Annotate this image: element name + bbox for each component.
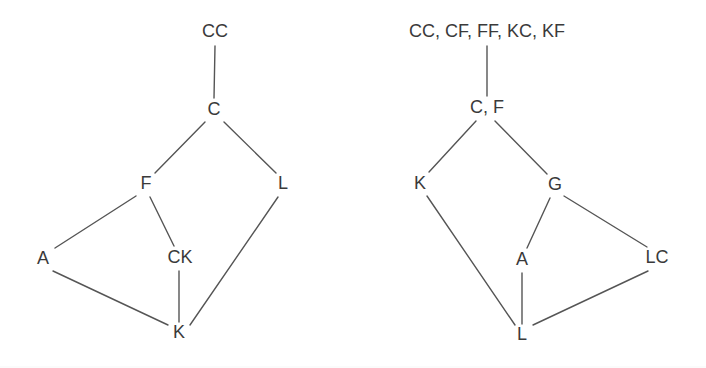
edge-f-a xyxy=(55,196,136,248)
edge-g-a xyxy=(527,198,550,248)
edge-k-l xyxy=(427,196,515,325)
node-f: F xyxy=(141,173,152,193)
node-l: L xyxy=(278,173,288,193)
edge-c-f xyxy=(155,122,205,173)
node-l: L xyxy=(517,324,527,344)
node-k: K xyxy=(414,173,426,193)
edge-cf-k xyxy=(429,121,476,172)
node-cf: C, F xyxy=(470,97,504,117)
lattice-diagrams-svg: CCCFLACKKCC, CF, FF, KC, KFC, FKGALCL xyxy=(0,0,706,368)
figure-canvas: CCCFLACKKCC, CF, FF, KC, KFC, FKGALCL xyxy=(0,0,706,368)
node-lc: LC xyxy=(645,247,668,267)
edge-l-k xyxy=(190,197,278,325)
node-k: K xyxy=(173,322,185,342)
edge-lc-l xyxy=(533,271,648,325)
edge-cf-g xyxy=(495,121,547,174)
node-c: C xyxy=(208,99,221,119)
edge-g-lc xyxy=(564,196,647,247)
node-a: A xyxy=(516,249,528,269)
node-g: G xyxy=(548,174,562,194)
edge-c-l xyxy=(224,122,276,173)
edge-f-ck xyxy=(150,197,174,246)
left-diagram-top-label: CC xyxy=(202,21,228,41)
left-lattice-diagram: CCCFLACKK xyxy=(37,21,288,342)
edge-top-c xyxy=(214,46,215,98)
node-a: A xyxy=(37,248,49,268)
right-diagram-top-label: CC, CF, FF, KC, KF xyxy=(409,21,565,41)
right-lattice-diagram: CC, CF, FF, KC, KFC, FKGALCL xyxy=(409,21,669,344)
node-ck: CK xyxy=(167,247,192,267)
edge-a-k xyxy=(53,271,168,325)
